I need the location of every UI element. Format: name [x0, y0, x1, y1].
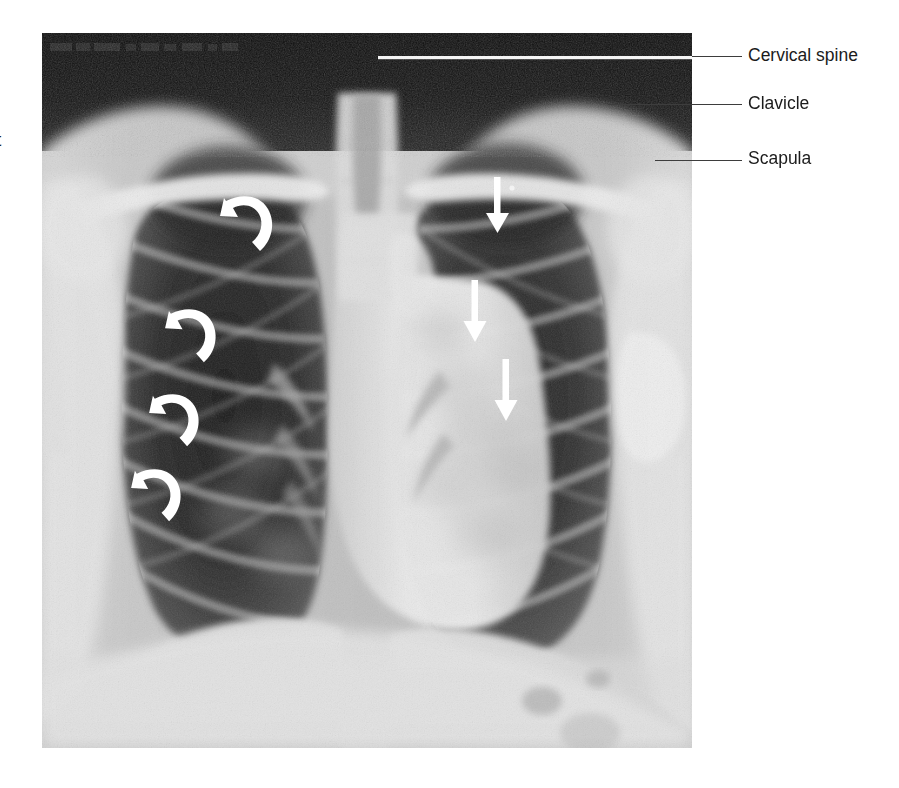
figure-root: t: [0, 0, 899, 788]
scapula-leader-line: [655, 160, 742, 161]
label-scapula: Scapula: [748, 150, 811, 168]
label-cervical-spine: Cervical spine: [748, 47, 858, 65]
page-margin-text: t: [0, 130, 1, 149]
label-clavicle: Clavicle: [748, 95, 809, 113]
clavicle-leader-line: [608, 104, 742, 105]
radiograph-svg: [42, 33, 692, 748]
cervical-spine-inner-leader: [378, 56, 692, 59]
radiograph-content: [42, 33, 692, 748]
chest-radiograph-image: [42, 33, 692, 748]
cervical-spine-leader-line: [692, 56, 742, 57]
